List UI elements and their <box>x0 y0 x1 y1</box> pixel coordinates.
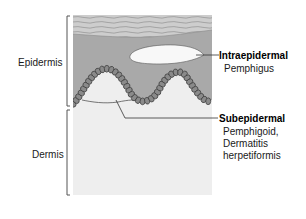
epidermis-bracket <box>67 16 70 106</box>
dermis-bracket <box>67 110 70 195</box>
diagram-canvas <box>0 0 306 219</box>
intraepidermal-title: Intraepidermal <box>219 50 288 61</box>
subepidermal-example-3: herpetiformis <box>223 150 281 161</box>
skin-block <box>69 15 212 195</box>
dermis-label: Dermis <box>32 149 64 160</box>
subepidermal-example-1: Pemphigoid, <box>223 126 279 137</box>
subepidermal-title: Subepidermal <box>219 113 285 124</box>
epidermis-label: Epidermis <box>18 57 62 68</box>
intraepidermal-example: Pemphigus <box>224 63 274 74</box>
skin-blister-diagram: Epidermis Dermis Intraepidermal Pemphigu… <box>0 0 306 219</box>
subepidermal-example-2: Dermatitis <box>223 138 268 149</box>
